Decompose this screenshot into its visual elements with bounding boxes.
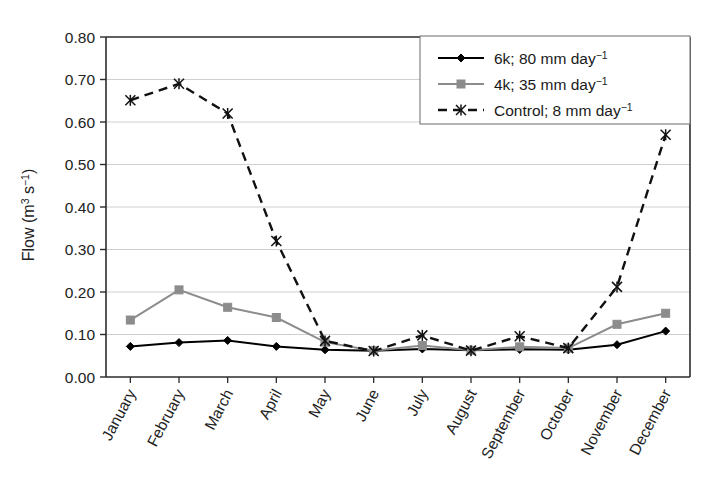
data-point-marker: [457, 80, 465, 88]
y-tick-label: 0.20: [65, 284, 96, 301]
y-axis-title-base1: Flow (m: [20, 204, 37, 261]
chart-legend: 6k; 80 mm day−14k; 35 mm day−1Control; 8…: [420, 36, 690, 124]
data-point-marker: [224, 303, 232, 311]
y-axis-title-base3: ): [20, 169, 37, 174]
y-tick-label: 0.70: [65, 71, 96, 88]
y-axis-title-base2: s: [20, 186, 37, 198]
legend-label-2: 4k; 35 mm day−1: [494, 75, 608, 93]
y-tick-label: 0.00: [65, 369, 96, 386]
y-tick-label: 0.50: [65, 156, 96, 173]
y-tick-label: 0.40: [65, 199, 96, 216]
legend-label-3: Control; 8 mm day−1: [494, 101, 633, 119]
y-axis-title-sup2: −1: [19, 174, 31, 186]
y-tick-label: 0.10: [65, 326, 96, 343]
data-point-marker: [613, 320, 621, 328]
y-tick-label: 0.60: [65, 114, 96, 131]
y-tick-label: 0.30: [65, 241, 96, 258]
y-tick-label: 0.80: [65, 29, 96, 46]
data-point-marker: [662, 309, 670, 317]
data-point-marker: [516, 343, 524, 351]
data-point-marker: [272, 314, 280, 322]
data-point-marker: [175, 286, 183, 294]
data-point-marker: [126, 316, 134, 324]
data-point-marker: [418, 342, 426, 350]
chart-figure: 0.000.100.200.300.400.500.600.700.80 Jan…: [0, 0, 710, 495]
legend-label-1: 6k; 80 mm day−1: [494, 49, 608, 67]
flow-line-chart: 0.000.100.200.300.400.500.600.700.80 Jan…: [0, 0, 710, 495]
